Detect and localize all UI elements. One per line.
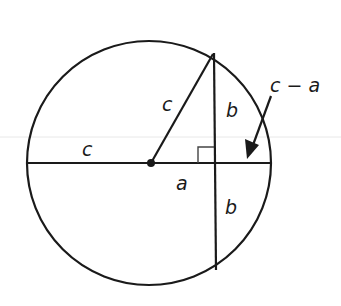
label-radius-left: c: [82, 138, 93, 160]
right-angle-mark: [198, 147, 214, 163]
center-point: [147, 159, 155, 167]
arrow-head-icon: [245, 139, 259, 159]
label-radius-slanted: c: [162, 93, 173, 115]
chord: [214, 53, 216, 270]
label-half-chord-bottom: b: [225, 196, 237, 218]
geometry-diagram: c c b b a c − a: [0, 0, 341, 306]
label-segment: c − a: [270, 74, 320, 96]
label-half-chord-top: b: [226, 99, 238, 121]
label-offset: a: [176, 172, 188, 194]
